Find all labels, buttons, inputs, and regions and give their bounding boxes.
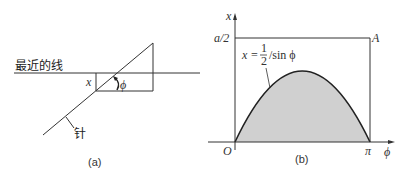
needle-label-leader	[66, 117, 74, 128]
needle	[43, 43, 153, 135]
nearest-line-label: 最近的线	[15, 58, 63, 73]
caption-b: (b)	[295, 153, 308, 165]
panel-b: x a/2 A O π ϕ x = 1 2 /sin ϕ (b)	[208, 9, 395, 165]
origin-label: O	[223, 144, 232, 158]
figure: 最近的线 针 x ϕ (a) x a/2 A O π ϕ x = 1 2 /si…	[0, 0, 403, 179]
x-axis-arrow-icon	[388, 140, 395, 144]
panel-a: 最近的线 针 x ϕ (a)	[14, 43, 200, 168]
caption-a: (a)	[88, 156, 101, 168]
y-axis-arrow-icon	[233, 13, 237, 20]
needle-label: 针	[74, 126, 86, 141]
curve-label-prefix: x =	[241, 48, 258, 62]
distance-label: x	[85, 75, 92, 89]
curve-label: x = 1 2 /sin ϕ	[241, 41, 296, 68]
curve-label-suffix: /sin ϕ	[269, 48, 296, 62]
x-tick-label: π	[365, 144, 372, 158]
curve-label-leader	[266, 68, 270, 88]
curve-label-numerator: 1	[261, 41, 267, 55]
x-axis-label: ϕ	[384, 145, 390, 159]
y-tick-label: a/2	[214, 31, 229, 45]
y-axis-label: x	[225, 9, 232, 23]
corner-label: A	[371, 31, 380, 45]
curve-label-denominator: 2	[261, 54, 267, 68]
angle-label: ϕ	[120, 78, 126, 92]
